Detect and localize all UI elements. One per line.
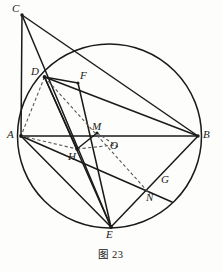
segment-A-H-dashed xyxy=(21,136,77,149)
point-label-F: F xyxy=(80,70,87,81)
point-label-M: M xyxy=(92,121,101,132)
dot-A xyxy=(19,134,23,138)
point-label-A: A xyxy=(7,129,14,140)
dot-D xyxy=(43,75,47,79)
segment-C-A xyxy=(21,15,22,136)
point-label-D: D xyxy=(31,66,39,77)
point-label-H: H xyxy=(68,151,76,162)
point-label-O: O xyxy=(110,140,118,151)
segment-A-E xyxy=(21,136,111,227)
point-label-C: C xyxy=(12,3,19,14)
point-label-E: E xyxy=(106,229,113,240)
dot-B xyxy=(196,134,199,137)
figure-caption: 图 23 xyxy=(0,246,222,261)
solid-lines xyxy=(21,15,198,227)
dot-C xyxy=(20,13,23,16)
figure-container: C D F A B M O H G N E 图 23 xyxy=(0,0,222,272)
point-label-B: B xyxy=(203,129,210,140)
point-dots xyxy=(19,13,200,229)
point-label-G: G xyxy=(161,174,169,185)
point-label-N: N xyxy=(146,192,153,203)
segment-F-E xyxy=(78,83,111,227)
dot-F xyxy=(77,82,80,85)
segment-C-B xyxy=(22,15,198,136)
